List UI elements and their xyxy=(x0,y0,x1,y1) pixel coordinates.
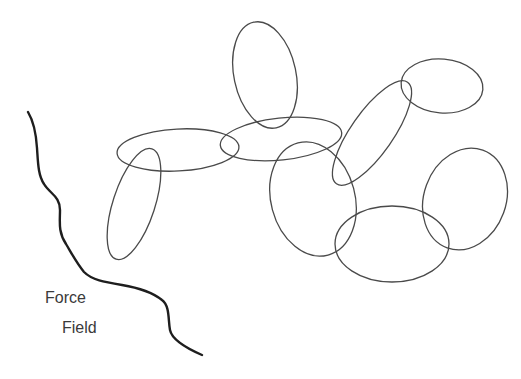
force-field-label-line1: Force xyxy=(45,290,86,306)
bottom-loop xyxy=(335,206,449,282)
upper-right-loop xyxy=(399,56,485,117)
left-vertical-loop xyxy=(96,142,172,265)
diagonal-loop xyxy=(319,70,425,196)
force-field-boundary xyxy=(28,112,202,355)
force-field-label-line2: Field xyxy=(62,320,97,336)
right-loop xyxy=(409,136,521,262)
center-round-loop xyxy=(257,132,368,266)
middle-horizontal-loop xyxy=(218,112,344,167)
left-horizontal-loop xyxy=(116,126,240,174)
